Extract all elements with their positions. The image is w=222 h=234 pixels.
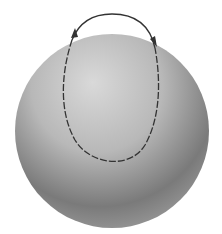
sphere-diagram: [0, 0, 222, 234]
sphere: [15, 34, 209, 228]
